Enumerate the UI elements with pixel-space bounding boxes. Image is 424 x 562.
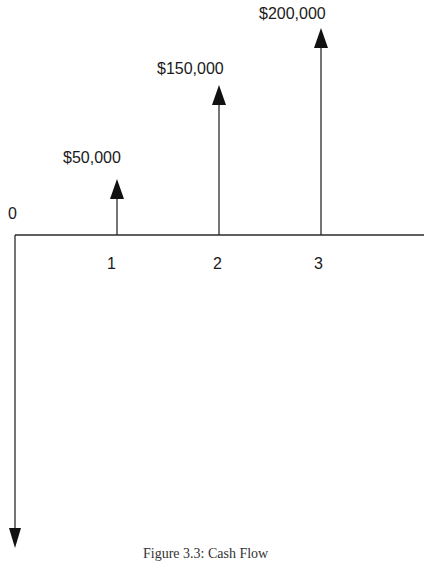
- inflow-arrowhead-1-icon: [110, 179, 124, 199]
- figure-caption: Figure 3.3: Cash Flow: [143, 546, 268, 562]
- inflow-arrowhead-2-icon: [212, 85, 226, 105]
- origin-label: 0: [8, 206, 17, 222]
- inflow-amount-3: $200,000: [259, 6, 326, 22]
- inflow-arrowhead-3-icon: [314, 28, 328, 48]
- inflow-amount-1: $50,000: [63, 150, 121, 166]
- period-label-3: 3: [314, 256, 323, 272]
- inflow-amount-2: $150,000: [157, 61, 224, 77]
- outflow-arrowhead-icon: [9, 528, 21, 548]
- period-label-2: 2: [213, 256, 222, 272]
- period-label-1: 1: [107, 256, 116, 272]
